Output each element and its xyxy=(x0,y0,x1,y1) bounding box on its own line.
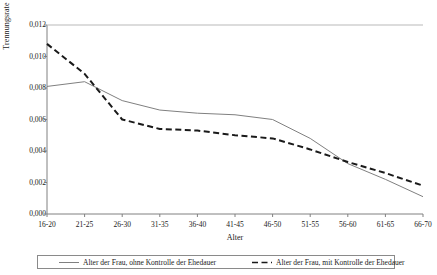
plot-area xyxy=(47,25,423,214)
series-line-1 xyxy=(47,82,423,197)
chart-legend: Alter der Frau, ohne Kontrolle der Eheda… xyxy=(37,255,395,269)
y-tick-label: 0,002 xyxy=(14,179,46,187)
plot-svg xyxy=(47,25,423,214)
y-tick-label: 0,004 xyxy=(14,147,46,155)
legend-entry-mit-kontrolle: Alter der Frau, mit Kontrolle der Ehedau… xyxy=(216,256,405,268)
y-tick-label: 0,006 xyxy=(14,116,46,124)
y-tick-label: 0,008 xyxy=(14,84,46,92)
y-tick-label: 0,012 xyxy=(14,21,46,29)
y-tick-label: 0,000 xyxy=(14,210,46,218)
y-axis-tick-labels: 0,0000,0020,0040,0060,0080,0100,012 xyxy=(14,0,46,275)
legend-label-ohne-kontrolle: Alter der Frau, ohne Kontrolle der Eheda… xyxy=(83,258,216,267)
legend-dashed-line-icon xyxy=(252,258,272,267)
y-tick-label: 0,010 xyxy=(14,53,46,61)
x-axis-title: Alter xyxy=(47,232,423,243)
legend-label-mit-kontrolle: Alter der Frau, mit Kontrolle der Ehedau… xyxy=(276,258,405,267)
y-axis-title: Trennungsrate xyxy=(0,0,14,86)
x-axis-tick-labels: 16-2021-2526-3031-3536-4041-4546-5051-55… xyxy=(47,219,423,233)
legend-entry-ohne-kontrolle: Alter der Frau, ohne Kontrolle der Eheda… xyxy=(38,256,216,268)
legend-solid-line-icon xyxy=(59,258,79,267)
x-tick-label: 66-70 xyxy=(400,219,437,230)
